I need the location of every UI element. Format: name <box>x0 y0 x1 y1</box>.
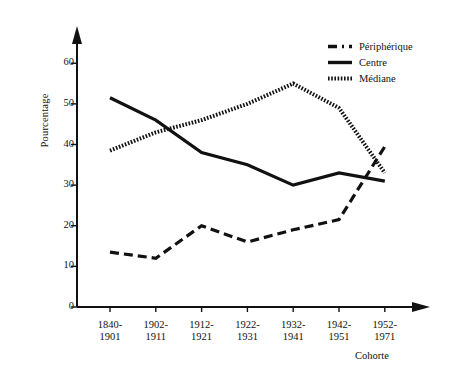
y-tick-label: 10 <box>40 260 74 270</box>
chart-legend: PériphériqueCentreMédiane <box>328 38 413 86</box>
y-tick-label: 60 <box>40 57 74 67</box>
series-line-m-diane <box>110 84 385 173</box>
legend-item[interactable]: Médiane <box>328 70 413 86</box>
chart-figure: Pourcentage 0102030405060 1840-19011902-… <box>0 0 452 383</box>
legend-item[interactable]: Périphérique <box>328 38 413 54</box>
legend-swatch-dash-dot-icon <box>328 41 352 52</box>
x-axis-arrowhead <box>412 302 430 312</box>
x-tick-label-line: 1971 <box>357 331 413 343</box>
x-tick-label: 1952-1971 <box>357 319 413 342</box>
x-axis-title: Cohorte <box>355 350 389 361</box>
legend-item[interactable]: Centre <box>328 54 413 70</box>
series-lines <box>110 84 385 259</box>
series-line-centre <box>110 98 385 185</box>
legend-swatch-dotted-icon <box>328 73 352 84</box>
y-tick-label: 40 <box>40 139 74 149</box>
legend-label: Centre <box>359 57 387 68</box>
y-tick-label: 0 <box>40 301 74 311</box>
legend-swatch-solid-icon <box>328 57 352 68</box>
y-tick-label: 50 <box>40 98 74 108</box>
legend-label: Médiane <box>359 73 396 84</box>
x-tick-label-line: 1952- <box>357 319 413 331</box>
y-axis-tick-labels: 0102030405060 <box>40 0 74 383</box>
y-tick-label: 30 <box>40 179 74 189</box>
legend-label: Périphérique <box>359 41 413 52</box>
y-tick-label: 20 <box>40 220 74 230</box>
